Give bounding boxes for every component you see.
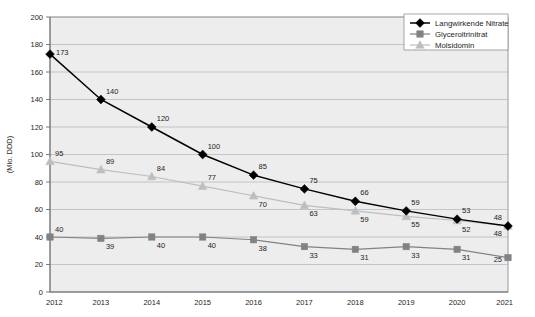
data-point-label: 66 [360, 188, 368, 197]
square-icon [417, 31, 423, 37]
data-point-marker [149, 234, 155, 240]
x-tick-label: 2013 [93, 298, 110, 307]
x-tick-label: 2014 [143, 298, 160, 307]
data-point-label: 140 [106, 87, 119, 96]
y-tick-label: 20 [35, 260, 43, 269]
y-tick-label: 180 [30, 40, 43, 49]
data-point-label: 89 [106, 157, 114, 166]
data-point-label: 53 [462, 206, 470, 215]
data-point-label: 48 [494, 229, 502, 238]
data-point-label: 75 [309, 176, 317, 185]
data-point-marker [505, 254, 511, 260]
legend-item-label: Molsidomin [435, 41, 474, 50]
data-point-marker [454, 246, 460, 252]
y-axis-title: (Mio. DDD) [5, 135, 14, 173]
data-point-marker [250, 237, 256, 243]
chart-canvas: 020406080100120140160180200 201220132014… [0, 0, 535, 317]
x-tick-label: 2019 [398, 298, 415, 307]
data-point-marker [47, 234, 53, 240]
y-tick-label: 40 [35, 233, 43, 242]
y-tick-label: 120 [30, 123, 43, 132]
data-point-label: 39 [106, 242, 114, 251]
data-point-marker [199, 234, 205, 240]
x-tick-label: 2012 [46, 298, 63, 307]
data-point-label: 33 [411, 251, 419, 260]
data-point-label: 95 [55, 149, 63, 158]
data-point-marker [301, 243, 307, 249]
chart-legend: Langwirkende NitrateGlyceroltrinitratMol… [404, 14, 509, 50]
x-tick-label: 2017 [296, 298, 313, 307]
legend-item-label: Glyceroltrinitrat [435, 30, 488, 39]
data-point-label: 40 [208, 241, 216, 250]
line-chart: 020406080100120140160180200 201220132014… [0, 0, 535, 317]
data-point-marker [98, 235, 104, 241]
x-tick-label: 2021 [496, 298, 513, 307]
y-tick-label: 60 [35, 205, 43, 214]
x-tick-label: 2020 [449, 298, 466, 307]
data-point-label: 38 [259, 244, 267, 253]
data-point-label: 55 [411, 220, 419, 229]
y-tick-label: 140 [30, 95, 43, 104]
data-point-label: 48 [494, 213, 502, 222]
data-point-label: 100 [208, 142, 221, 151]
legend-item-label: Langwirkende Nitrate [435, 19, 509, 28]
data-point-label: 173 [56, 48, 69, 57]
y-tick-label: 200 [30, 13, 43, 22]
y-tick-label: 160 [30, 68, 43, 77]
data-point-marker [403, 243, 409, 249]
data-point-label: 31 [360, 253, 368, 262]
data-point-label: 85 [259, 162, 267, 171]
x-tick-label: 2015 [194, 298, 211, 307]
x-tick-label: 2016 [245, 298, 262, 307]
data-point-label: 25 [494, 255, 502, 264]
data-point-label: 77 [208, 173, 216, 182]
x-tick-label: 2018 [347, 298, 364, 307]
data-point-label: 120 [157, 114, 170, 123]
data-point-label: 40 [55, 225, 63, 234]
data-point-label: 59 [360, 215, 368, 224]
data-point-label: 63 [309, 209, 317, 218]
y-tick-label: 100 [30, 150, 43, 159]
y-tick-label: 0 [39, 288, 43, 297]
data-point-label: 31 [462, 253, 470, 262]
data-point-label: 33 [309, 251, 317, 260]
data-point-label: 40 [157, 241, 165, 250]
data-point-label: 84 [157, 164, 165, 173]
data-point-label: 70 [259, 200, 267, 209]
data-point-label: 59 [411, 198, 419, 207]
data-point-marker [352, 246, 358, 252]
y-tick-label: 80 [35, 178, 43, 187]
data-point-label: 52 [462, 225, 470, 234]
